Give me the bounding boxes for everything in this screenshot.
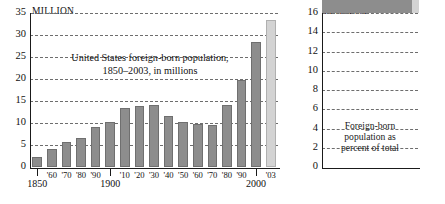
bar <box>62 142 72 167</box>
bar <box>149 105 159 167</box>
right-caption-line1: Foreign-born <box>322 120 418 132</box>
bar <box>266 20 276 167</box>
gridline <box>30 13 278 14</box>
bar <box>237 80 247 167</box>
y-tick-label: 0 <box>2 161 26 171</box>
left-y-axis <box>30 13 31 169</box>
bar <box>193 124 203 167</box>
bar <box>178 122 188 167</box>
right-caption-line3: percent of total <box>322 142 418 154</box>
right-caption-line2: population as <box>322 131 418 143</box>
x-tick-label-minor: '20 <box>134 171 144 180</box>
x-tick-label-minor: '70 <box>207 171 217 180</box>
chart-panel-millions: MILLION 05101520253035 1850'60'70'80'901… <box>0 0 292 204</box>
x-axis-tick <box>37 169 38 176</box>
x-axis-tick <box>256 169 257 176</box>
y-tick-label: 20 <box>2 73 26 83</box>
bar <box>120 108 130 167</box>
left-plot-area <box>30 13 278 167</box>
right-x-axis <box>322 168 420 169</box>
bar <box>208 125 218 167</box>
gridline <box>322 13 418 14</box>
x-tick-label-minor: '60 <box>47 171 57 180</box>
gridline <box>322 90 418 91</box>
y-tick-label: 25 <box>2 51 26 61</box>
x-tick-label-major: 1900 <box>100 179 120 188</box>
y-tick-label: 14 <box>294 26 318 36</box>
x-tick-label-minor: '60 <box>193 171 203 180</box>
x-tick-label-minor: '40 <box>164 171 174 180</box>
y-tick-label: 10 <box>2 117 26 127</box>
x-axis-tick <box>110 169 111 176</box>
x-tick-label-minor: '70 <box>61 171 71 180</box>
y-tick-label: 4 <box>294 123 318 133</box>
gridline <box>30 35 278 36</box>
x-tick-label-minor: '30 <box>149 171 159 180</box>
x-tick-label-major: 1850 <box>27 179 47 188</box>
gridline <box>322 109 418 110</box>
x-tick-label-major: 2000 <box>246 179 266 188</box>
left-caption-line2: 1850–2003, in millions <box>60 65 240 78</box>
gridline <box>322 32 418 33</box>
x-tick-label-minor: '90 <box>91 171 101 180</box>
y-tick-label: 16 <box>294 7 318 17</box>
figure-root: MILLION 05101520253035 1850'60'70'80'901… <box>0 0 445 204</box>
bar <box>91 127 101 167</box>
gridline <box>322 52 418 53</box>
y-tick-label: 0 <box>294 161 318 171</box>
x-tick-label-minor: '80 <box>76 171 86 180</box>
bar <box>47 149 57 167</box>
gridline <box>322 71 418 72</box>
y-tick-label: 10 <box>294 65 318 75</box>
x-tick-label-minor: '10 <box>120 171 130 180</box>
bar <box>164 116 174 167</box>
x-tick-label-minor: '50 <box>178 171 188 180</box>
left-caption-line1: United States foreign-born population, <box>60 52 240 65</box>
x-tick-label-minor: '80 <box>222 171 232 180</box>
y-tick-label: 30 <box>2 29 26 39</box>
y-tick-label: 8 <box>294 84 318 94</box>
y-tick-label: 35 <box>2 7 26 17</box>
bar <box>251 42 261 167</box>
chart-panel-percent: PERCENT 0246810121416 Foreign-born popul… <box>292 0 445 204</box>
x-tick-label-minor: '03 <box>266 171 276 180</box>
bar <box>222 105 232 167</box>
bar <box>135 106 145 167</box>
y-tick-label: 5 <box>2 139 26 149</box>
bar <box>105 122 115 167</box>
y-tick-label: 6 <box>294 103 318 113</box>
step-column <box>412 0 418 13</box>
bar <box>32 157 42 167</box>
bar <box>76 138 86 167</box>
y-tick-label: 12 <box>294 46 318 56</box>
left-x-axis <box>30 168 280 169</box>
y-tick-label: 15 <box>2 95 26 105</box>
x-tick-label-minor: '90 <box>236 171 246 180</box>
y-tick-label: 2 <box>294 142 318 152</box>
